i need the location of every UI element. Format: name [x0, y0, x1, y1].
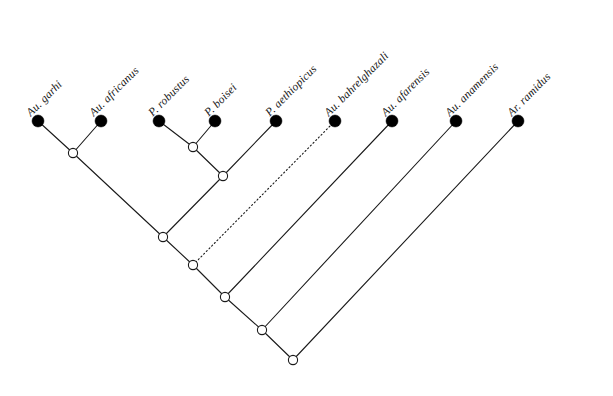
branch-layer	[38, 121, 518, 360]
branch-join3-left	[225, 297, 262, 330]
branch-p-robustus	[159, 121, 193, 147]
branch-au-garhi	[38, 121, 73, 153]
branch-aethiopicus-dotted	[193, 121, 335, 265]
branch-ar-ramidus	[293, 121, 518, 360]
node-paranthropus	[218, 171, 227, 180]
node-bahrelghazali-join	[220, 292, 229, 301]
tip-node-au-africanus	[95, 115, 107, 127]
tree-svg	[0, 0, 613, 396]
node-robustus-boisei	[188, 142, 197, 151]
branch-au-africanus	[73, 121, 101, 153]
node-root	[288, 355, 297, 364]
cladogram-figure: Au. garhiAu. africanusP. robustusP. bois…	[0, 0, 613, 396]
tip-node-au-garhi	[32, 115, 44, 127]
node-anamensis-join	[257, 325, 266, 334]
node-aethiopicus-join	[188, 260, 197, 269]
branch-australopith-left	[73, 153, 163, 237]
branch-root-left	[262, 330, 293, 360]
branch-p-aethiopicus-tip	[223, 121, 276, 176]
branch-join1-left	[163, 237, 193, 265]
branch-paranthropus-up	[193, 147, 223, 176]
node-australopith	[158, 232, 167, 241]
node-garhi-africanus	[68, 148, 77, 157]
branch-au-anamensis	[262, 121, 456, 330]
internal-node-layer	[68, 142, 297, 364]
branch-join2-left	[193, 265, 225, 297]
branch-australopith-right	[163, 176, 223, 237]
